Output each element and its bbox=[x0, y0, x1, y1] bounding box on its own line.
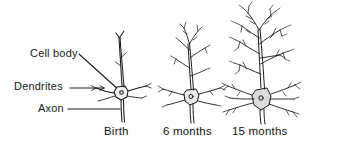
basal-dendrite-6m-right2 bbox=[198, 101, 216, 105]
apical-sec-15m-16 bbox=[234, 63, 240, 65]
apical-ter-15m-5 bbox=[289, 49, 294, 51]
caption-six-months: 6 months bbox=[163, 125, 212, 137]
apical-primary-15m-7 bbox=[242, 26, 260, 38]
basal-twig-6m-4 bbox=[220, 85, 225, 88]
apical-sec-15m-2 bbox=[248, 6, 249, 13]
basal-twig-15m-14 bbox=[294, 97, 299, 99]
basal-twig-15m-15 bbox=[237, 92, 240, 96]
apical-branch-6m-1 bbox=[184, 28, 190, 44]
basal-twig-6m-1 bbox=[158, 86, 163, 89]
apical-branch-birth-2 bbox=[116, 62, 121, 66]
axon-fifteen-months bbox=[260, 110, 261, 124]
neuron-fifteen-months bbox=[222, 2, 301, 124]
apical-twig-6m-10 bbox=[176, 38, 180, 41]
apical-ter-15m-9 bbox=[234, 48, 238, 51]
label-cell-body: Cell body bbox=[30, 47, 78, 59]
caption-birth: Birth bbox=[104, 125, 129, 137]
apical-primary-15m-1 bbox=[248, 13, 259, 30]
apical-sec-15m-13 bbox=[283, 51, 289, 53]
apical-twig-6m-3 bbox=[198, 27, 202, 31]
basal-15m-left-1 bbox=[228, 86, 252, 95]
leader-lines bbox=[68, 54, 120, 109]
apical-twig-6m-5 bbox=[205, 45, 210, 48]
soma-six-months bbox=[184, 89, 199, 105]
basal-dendrite-birth-left2 bbox=[98, 96, 115, 101]
basal-dendrite-6m-left2 bbox=[167, 100, 185, 105]
apical-sec-15m-5 bbox=[270, 9, 271, 15]
apical-sec-15m-7 bbox=[280, 27, 286, 30]
apical-twig-6m-6 bbox=[205, 48, 207, 53]
apical-sec-15m-11 bbox=[238, 42, 240, 48]
apical-sec-15m-1 bbox=[243, 8, 248, 13]
apical-ter-15m-12 bbox=[249, 2, 252, 6]
apical-primary-15m-4 bbox=[240, 42, 260, 54]
apical-ter-15m-1 bbox=[239, 5, 243, 8]
axon-birth-b bbox=[124, 100, 125, 122]
neuron-six-months bbox=[158, 22, 225, 123]
apical-ter-15m-2 bbox=[276, 8, 280, 11]
apical-branch-6m-4 bbox=[176, 59, 190, 68]
basal-15m-right-2 bbox=[269, 104, 293, 112]
apical-ter-15m-11 bbox=[235, 71, 239, 74]
apical-ter-15m-10 bbox=[285, 59, 290, 61]
basal-dendrite-6m-right bbox=[199, 88, 220, 94]
basal-dendrite-birth-right-tip-b bbox=[146, 86, 151, 88]
soma-birth bbox=[114, 86, 128, 100]
axon-fifteen-months-b bbox=[264, 109, 265, 124]
apical-ter-15m-13 bbox=[270, 5, 273, 9]
basal-twig-15m-13 bbox=[225, 96, 230, 98]
apical-ter-15m-3 bbox=[286, 25, 291, 27]
basal-twig-6m-3 bbox=[162, 105, 167, 107]
basal-twig-15m-8 bbox=[295, 85, 300, 89]
basal-twig-6m-6 bbox=[216, 105, 221, 106]
soma-fifteen-months bbox=[252, 88, 271, 110]
apical-primary-15m-8 bbox=[261, 55, 281, 58]
caption-fifteen-months: 15 months bbox=[232, 125, 288, 137]
basal-twig-15m-1 bbox=[222, 83, 228, 86]
basal-twig-15m-7 bbox=[295, 82, 301, 85]
apical-tip-birth-a bbox=[116, 33, 120, 38]
basal-twig-15m-16 bbox=[283, 92, 286, 96]
basal-dendrite-birth-right-tip-a bbox=[146, 84, 151, 87]
basal-15m-right-1 bbox=[271, 85, 295, 94]
apical-ter-15m-8 bbox=[282, 34, 287, 36]
apical-ter-15m-7 bbox=[231, 21, 236, 23]
neuron-development-figure: Cell body Dendrites Axon Birth 6 months … bbox=[0, 0, 337, 148]
apical-sec-15m-20 bbox=[241, 26, 242, 32]
label-axon: Axon bbox=[38, 102, 64, 114]
apical-sec-15m-8 bbox=[280, 30, 282, 36]
basal-15m-left-3 bbox=[230, 98, 254, 99]
basal-dendrite-birth-right2-tip bbox=[142, 96, 147, 98]
apical-sec-15m-10 bbox=[234, 39, 240, 42]
axon-six-months-b bbox=[193, 104, 194, 123]
apical-twig-6m-1 bbox=[180, 24, 184, 28]
apical-sec-15m-4 bbox=[271, 11, 276, 15]
apical-branch-6m-3 bbox=[190, 48, 205, 58]
basal-dendrite-birth-right2 bbox=[127, 96, 142, 98]
apical-twig-6m-7 bbox=[171, 56, 176, 59]
axon-birth bbox=[121, 100, 122, 122]
apical-ter-15m-4 bbox=[229, 37, 234, 39]
basal-dendrite-6m-left bbox=[163, 89, 184, 95]
apical-twig-6m-4 bbox=[197, 25, 198, 31]
leader-line-cell-body bbox=[79, 54, 120, 91]
apical-sec-15m-19 bbox=[236, 23, 242, 26]
label-dendrites: Dendrites bbox=[14, 80, 63, 92]
neuron-birth bbox=[91, 31, 151, 122]
basal-dendrite-birth-left bbox=[96, 88, 114, 93]
apical-ter-15m-6 bbox=[229, 61, 234, 63]
apical-twig-6m-9 bbox=[205, 68, 210, 70]
basal-twig-15m-2 bbox=[223, 86, 228, 90]
apical-primary-15m-3 bbox=[260, 30, 281, 44]
basal-twig-6m-8 bbox=[210, 91, 213, 95]
apical-twig-6m-2 bbox=[184, 22, 186, 28]
basal-twig-6m-7 bbox=[169, 92, 172, 96]
basal-twig-6m-2 bbox=[159, 89, 164, 92]
basal-dendrite-birth-right bbox=[128, 86, 146, 91]
apical-tip-birth-b bbox=[120, 31, 124, 37]
axon-six-months bbox=[190, 105, 191, 123]
basal-15m-left-2 bbox=[229, 103, 253, 110]
apical-primary-15m-6 bbox=[240, 65, 261, 74]
apical-sec-15m-17 bbox=[239, 65, 240, 71]
apical-twig-6m-8 bbox=[174, 59, 176, 64]
